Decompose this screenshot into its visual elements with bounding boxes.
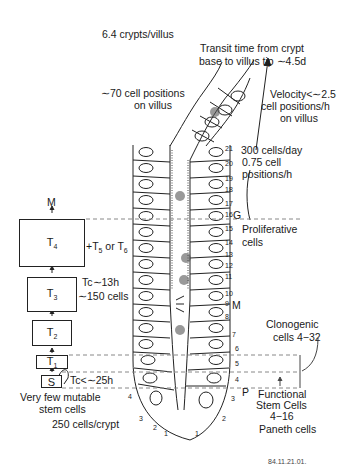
box-stem-label: S (48, 376, 55, 388)
stem-note-label-1: Very few mutable (20, 391, 101, 403)
cell-position-16: 16 (225, 211, 233, 219)
velocity-label-2: cell positions/h (261, 100, 330, 112)
villus-positions-label-2: on villus (134, 99, 172, 111)
box-t4-label: T4 (47, 236, 58, 250)
transit-time-label-2: base to villus tip ∼4.5d (199, 55, 306, 67)
box-t2: T2 (32, 320, 72, 346)
paneth-position-label: P (242, 386, 249, 398)
cell-position-7: 7 (232, 331, 236, 339)
cell-position-4: 4 (235, 376, 239, 384)
box-t1-label: T1 (47, 355, 58, 369)
clonogenic-label-1: Clonogenic (266, 318, 319, 330)
box-t4: T4 (19, 219, 85, 267)
cell-position-2: 2 (222, 415, 226, 423)
proliferative-label-2: cells (242, 236, 263, 248)
box-t3-label: T3 (47, 287, 58, 301)
t4-extra-label: +T5 or T6 (86, 240, 128, 257)
cell-position-17: 17 (225, 200, 233, 208)
crypts-per-villus-label: 6.4 crypts/villus (102, 28, 174, 40)
cell-position-21: 21 (225, 145, 233, 153)
clonogenic-label-2: cells 4−32 (273, 331, 321, 343)
cell-position-15: 15 (225, 225, 233, 233)
cell-position-11: 11 (225, 273, 232, 281)
t3-cells-label: ∼150 cells (78, 290, 128, 302)
stem-cycle-label: Tc<∼25h (70, 374, 113, 386)
cell-position-left-1: 1 (164, 430, 168, 438)
cell-position-6: 6 (235, 345, 239, 353)
output-label-3: positions/h (242, 168, 292, 180)
cell-position-13: 13 (225, 251, 233, 259)
velocity-label-1: Velocity<∼2.5 (270, 88, 336, 100)
cell-position-10: 10 (225, 290, 233, 298)
box-stem: S (41, 375, 62, 388)
villus-positions-label-1: ∼70 cell positions (101, 87, 185, 99)
box-t3: T3 (27, 277, 77, 312)
proliferative-label-1: Proliferative (242, 223, 297, 235)
output-label-1: 300 cells/day (241, 144, 302, 156)
stem-note-label-2: stem cells (39, 403, 86, 415)
hierarchy-top-m: M (47, 196, 56, 208)
paneth-cells-label: Paneth cells (259, 423, 316, 435)
cell-position-9: 9 (225, 300, 229, 308)
box-t1: T1 (36, 355, 68, 369)
box-t2-label: T2 (47, 326, 58, 340)
mitosis-label: M (232, 299, 241, 311)
velocity-label-3: on villus (280, 112, 318, 124)
cell-position-20: 20 (225, 160, 233, 168)
cell-position-19: 19 (225, 175, 233, 183)
goblet-label: G (233, 209, 241, 221)
t3-cycle-label: Tc∼13h (82, 276, 119, 288)
cell-position-14: 14 (225, 239, 233, 247)
cell-position-left-2: 2 (153, 424, 157, 432)
cell-position-18: 18 (225, 186, 233, 194)
cell-position-8: 8 (225, 313, 229, 321)
cell-position-left-3: 3 (139, 415, 143, 423)
transit-time-label-1: Transit time from crypt (200, 42, 304, 54)
functional-stem-label-3: 4−16 (270, 410, 294, 422)
cell-position-12: 12 (225, 262, 233, 270)
cells-per-crypt-label: 250 cells/crypt (52, 418, 119, 430)
figure-id: 84.11.21.01. (268, 458, 306, 466)
cell-position-3: 3 (231, 395, 235, 403)
cell-position-5: 5 (235, 360, 239, 368)
output-label-2: 0.75 cell (242, 156, 281, 168)
cell-position-1: 1 (195, 430, 199, 438)
cell-position-left-4: 4 (128, 393, 132, 401)
